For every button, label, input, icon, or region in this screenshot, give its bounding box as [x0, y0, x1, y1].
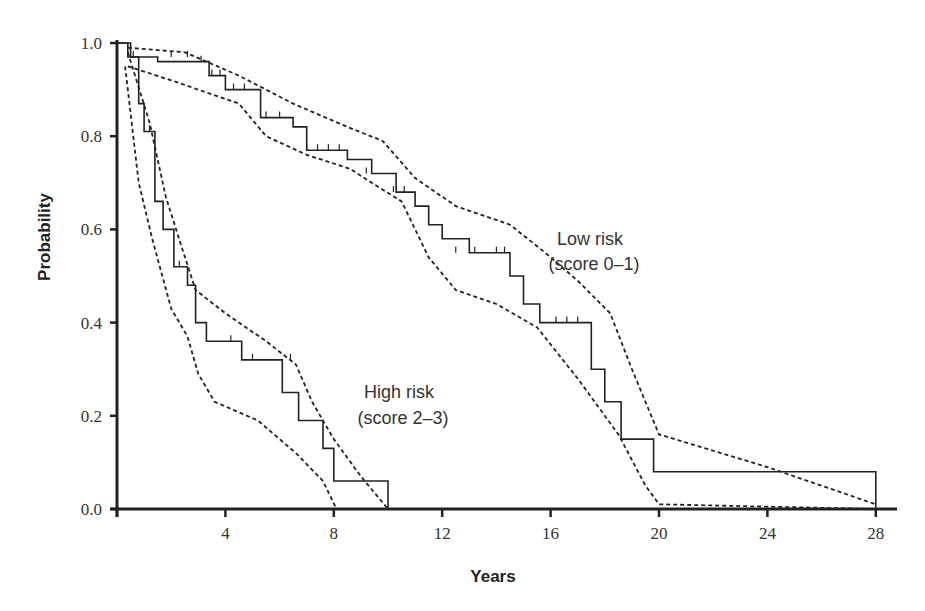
y-tick-label: 1.0	[81, 34, 102, 53]
high-risk-label: High risk	[364, 382, 435, 402]
x-tick-label: 4	[221, 524, 230, 543]
x-tick-label: 12	[434, 524, 451, 543]
x-axis-title: Years	[470, 567, 515, 586]
y-tick-label: 0.8	[81, 127, 102, 146]
x-tick-label: 20	[651, 524, 668, 543]
low-risk-score-label: (score 0–1)	[548, 254, 639, 274]
y-axis-ticks: 0.00.20.40.60.81.0	[81, 34, 117, 519]
survival-curves	[117, 43, 876, 509]
kaplan-meier-chart: 0.00.20.40.60.81.0 481216202428 Years Pr…	[0, 0, 925, 611]
low-risk-label: Low risk	[557, 229, 624, 249]
y-axis-title: Probability	[35, 193, 54, 281]
y-tick-label: 0.2	[81, 407, 102, 426]
axes	[110, 40, 897, 517]
x-tick-label: 8	[330, 524, 339, 543]
ci-band-line-5	[125, 66, 388, 509]
ci-band-line-1	[128, 48, 876, 505]
y-tick-label: 0.0	[81, 500, 102, 519]
x-axis-ticks: 481216202428	[117, 509, 884, 543]
annotation-low-risk: Low risk (score 0–1)	[548, 229, 639, 274]
y-tick-label: 0.4	[81, 314, 103, 333]
y-tick-label: 0.6	[81, 220, 102, 239]
annotation-high-risk: High risk (score 2–3)	[357, 382, 448, 428]
survival-step-line-0	[117, 43, 876, 509]
survival-step-line-3	[117, 43, 388, 509]
x-tick-label: 24	[759, 524, 777, 543]
ci-band-line-2	[128, 66, 876, 509]
x-tick-label: 28	[867, 524, 884, 543]
high-risk-score-label: (score 2–3)	[357, 408, 448, 428]
ci-band-line-4	[128, 52, 388, 509]
x-tick-label: 16	[542, 524, 559, 543]
